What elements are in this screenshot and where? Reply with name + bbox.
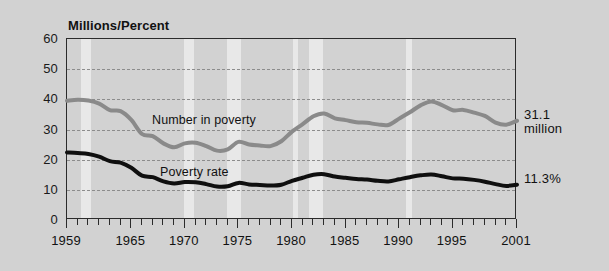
series-line-poverty-rate — [67, 152, 517, 186]
y-axis-title: Millions/Percent — [68, 18, 169, 33]
y-tick-label: 50 — [32, 61, 58, 76]
x-tick-minor — [312, 219, 313, 225]
x-tick-label: 1959 — [51, 233, 81, 248]
x-tick-minor — [409, 219, 410, 225]
x-tick-label: 1980 — [276, 233, 306, 248]
x-tick-major — [452, 219, 453, 228]
x-tick-minor — [505, 219, 506, 225]
plot-area — [66, 38, 516, 219]
y-tick-label: 0 — [32, 212, 58, 227]
poverty-chart-figure: Millions/Percent 0102030405060 195919651… — [0, 0, 609, 271]
y-tick-label: 20 — [32, 151, 58, 166]
x-tick-label: 1995 — [437, 233, 467, 248]
x-tick-minor — [227, 219, 228, 225]
x-tick-minor — [120, 219, 121, 225]
x-tick-label: 1970 — [169, 233, 199, 248]
y-tick-label: 60 — [32, 31, 58, 46]
x-tick-label: 1965 — [115, 233, 145, 248]
x-tick-minor — [323, 219, 324, 225]
x-tick-minor — [205, 219, 206, 225]
x-tick-minor — [473, 219, 474, 225]
x-tick-minor — [441, 219, 442, 225]
x-tick-minor — [302, 219, 303, 225]
x-tick-major — [291, 219, 292, 228]
x-tick-minor — [162, 219, 163, 225]
x-tick-minor — [495, 219, 496, 225]
x-tick-label: 2001 — [501, 233, 531, 248]
x-tick-minor — [173, 219, 174, 225]
annotation-rate-end-value: 11.3% — [524, 172, 561, 186]
x-tick-minor — [141, 219, 142, 225]
series-line-number-in-poverty — [67, 100, 517, 151]
x-tick-major — [398, 219, 399, 228]
x-tick-major — [345, 219, 346, 228]
x-tick-minor — [259, 219, 260, 225]
x-tick-minor — [270, 219, 271, 225]
x-tick-major — [516, 219, 517, 228]
x-tick-minor — [334, 219, 335, 225]
annotation-number-end-value: 31.1 million — [524, 108, 562, 136]
x-tick-label: 1985 — [330, 233, 360, 248]
x-tick-minor — [87, 219, 88, 225]
series-label-number-in-poverty: Number in poverty — [152, 113, 256, 127]
x-tick-major — [184, 219, 185, 228]
x-tick-minor — [216, 219, 217, 225]
series-label-poverty-rate: Poverty rate — [160, 165, 229, 179]
x-tick-minor — [248, 219, 249, 225]
x-tick-minor — [484, 219, 485, 225]
x-tick-major — [66, 219, 67, 228]
x-tick-major — [237, 219, 238, 228]
x-tick-major — [130, 219, 131, 228]
y-tick-label: 10 — [32, 181, 58, 196]
x-tick-minor — [77, 219, 78, 225]
y-tick-label: 30 — [32, 121, 58, 136]
x-tick-minor — [280, 219, 281, 225]
x-tick-minor — [430, 219, 431, 225]
x-tick-label: 1990 — [383, 233, 413, 248]
x-tick-minor — [420, 219, 421, 225]
x-tick-minor — [462, 219, 463, 225]
x-tick-minor — [387, 219, 388, 225]
x-tick-minor — [355, 219, 356, 225]
x-tick-minor — [109, 219, 110, 225]
x-tick-label: 1975 — [223, 233, 253, 248]
x-tick-minor — [152, 219, 153, 225]
x-tick-minor — [98, 219, 99, 225]
x-tick-minor — [195, 219, 196, 225]
x-tick-minor — [366, 219, 367, 225]
series-lines — [67, 39, 517, 220]
y-tick-label: 40 — [32, 91, 58, 106]
x-tick-minor — [377, 219, 378, 225]
